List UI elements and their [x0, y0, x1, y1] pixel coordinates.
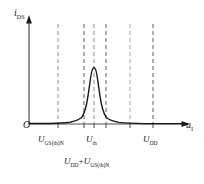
x-tick-label-uth: Uth — [86, 135, 97, 146]
y-axis — [26, 15, 32, 124]
origin-label: O — [23, 120, 30, 130]
x-tick-label-uth-subscript: th — [93, 140, 97, 146]
x-axis-label: uI — [186, 120, 193, 132]
x-tick-label-ugsthn: UGS(th)N — [38, 135, 64, 146]
figure-container: iDS uI O UGS(th)N Uth UDD UDD+UGS(th)N — [0, 0, 204, 184]
x-tick-label-ugsthn-subscript: GS(th)N — [45, 140, 64, 146]
x-axis-label-subscript: I — [191, 125, 193, 132]
bottom-annotation-udd-plus-ugsthn: UDD+UGS(th)N — [64, 157, 109, 168]
y-axis-label: iDS — [14, 8, 25, 20]
gridlines-group — [58, 24, 153, 124]
x-tick-label-udd: UDD — [143, 135, 158, 146]
y-axis-label-subscript: DS — [17, 13, 25, 20]
bottom-annotation-part1-subscript: DD — [71, 162, 79, 168]
bottom-annotation-part2-subscript: GS(th)N — [90, 162, 109, 168]
x-tick-label-udd-subscript: DD — [150, 140, 158, 146]
